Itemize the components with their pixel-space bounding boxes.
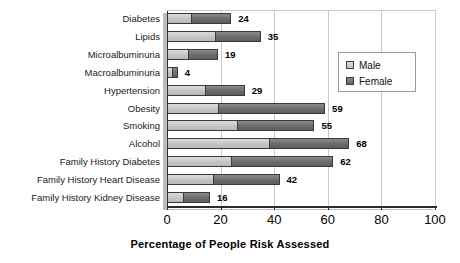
- bar-row: [167, 138, 349, 149]
- bar-segment-female: [231, 156, 333, 167]
- bar-segment-female: [183, 192, 210, 203]
- bar-segment-female: [188, 49, 217, 60]
- x-axis-shadow: [163, 209, 433, 210]
- bar-row: [167, 31, 261, 42]
- bar-segment-male: [167, 31, 215, 42]
- category-label: Obesity: [0, 103, 160, 114]
- x-tick-label-40: 40: [254, 212, 294, 228]
- y-axis-category-labels: DiabetesLipidsMicroalbuminuriaMacroalbum…: [0, 10, 160, 206]
- x-axis-line: [167, 206, 437, 208]
- bar-segment-female: [215, 31, 261, 42]
- bar-value-label: 62: [340, 156, 351, 167]
- x-tick-100: [435, 206, 436, 210]
- category-label: Family History Kidney Disease: [0, 192, 160, 203]
- bar-segment-male: [167, 85, 205, 96]
- bar-segment-female: [191, 13, 231, 24]
- bar-value-label: 4: [185, 67, 190, 78]
- bar-value-label: 24: [238, 13, 249, 24]
- legend: Male Female: [338, 52, 416, 92]
- category-label: Macroalbuminuria: [0, 67, 160, 78]
- category-label: Diabetes: [0, 13, 160, 24]
- x-tick-label-80: 80: [361, 212, 401, 228]
- bar-segment-male: [167, 192, 183, 203]
- x-tick-80: [381, 206, 382, 210]
- legend-label-male: Male: [359, 60, 381, 71]
- category-label: Hypertension: [0, 85, 160, 96]
- x-tick-60: [328, 206, 329, 210]
- bar-segment-female: [237, 120, 315, 131]
- bar-series-group: 243519429595568624216: [167, 10, 435, 206]
- bar-row: [167, 120, 314, 131]
- bar-chart: DiabetesLipidsMicroalbuminuriaMacroalbum…: [0, 0, 460, 263]
- legend-swatch-male-icon: [346, 61, 354, 69]
- bar-segment-male: [167, 103, 218, 114]
- category-label: Lipids: [0, 31, 160, 42]
- bar-segment-female: [218, 103, 325, 114]
- category-label: Family History Heart Disease: [0, 174, 160, 185]
- category-label: Microalbuminuria: [0, 49, 160, 60]
- bar-segment-male: [167, 174, 213, 185]
- x-axis-title: Percentage of People Risk Assessed: [0, 238, 460, 250]
- bar-segment-female: [205, 85, 245, 96]
- x-tick-label-60: 60: [308, 212, 348, 228]
- bar-row: [167, 49, 218, 60]
- bar-segment-male: [167, 138, 269, 149]
- legend-label-female: Female: [359, 76, 392, 87]
- bar-segment-male: [167, 156, 231, 167]
- bar-row: [167, 174, 280, 185]
- legend-item-female: Female: [346, 73, 415, 89]
- legend-item-male: Male: [346, 57, 415, 73]
- bar-row: [167, 13, 231, 24]
- bar-row: [167, 103, 325, 114]
- bar-segment-female: [269, 138, 349, 149]
- x-tick-label-0: 0: [147, 212, 187, 228]
- gridline-100: [435, 10, 436, 206]
- bar-value-label: 68: [356, 138, 367, 149]
- category-label: Alcohol: [0, 138, 160, 149]
- bar-value-label: 59: [332, 103, 343, 114]
- bar-value-label: 29: [252, 85, 263, 96]
- bar-value-label: 35: [268, 31, 279, 42]
- bar-segment-male: [167, 49, 188, 60]
- x-tick-20: [221, 206, 222, 210]
- bar-value-label: 19: [225, 49, 236, 60]
- bar-segment-female: [213, 174, 280, 185]
- category-label: Smoking: [0, 120, 160, 131]
- bar-segment-male: [167, 120, 237, 131]
- legend-swatch-female-icon: [346, 77, 354, 85]
- x-tick-0: [167, 206, 168, 210]
- bar-row: [167, 192, 210, 203]
- x-tick-label-100: 100: [415, 212, 455, 228]
- bar-row: [167, 156, 333, 167]
- bar-row: [167, 67, 178, 78]
- bar-segment-female: [172, 67, 177, 78]
- bar-row: [167, 85, 245, 96]
- x-tick-40: [274, 206, 275, 210]
- category-label: Family History Diabetes: [0, 156, 160, 167]
- bar-value-label: 16: [217, 192, 228, 203]
- bar-value-label: 42: [287, 174, 298, 185]
- bar-value-label: 55: [321, 120, 332, 131]
- x-tick-label-20: 20: [201, 212, 241, 228]
- bar-segment-male: [167, 13, 191, 24]
